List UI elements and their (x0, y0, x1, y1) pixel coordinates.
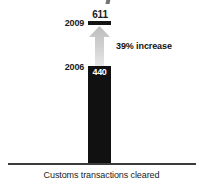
growth-bar-figure: 611 2009 39% increase 2006 440 Customs t… (0, 0, 203, 187)
year-label-2006: 2006 (52, 62, 84, 72)
bar-2006: 440 (88, 66, 111, 164)
value-label-2009: 611 (84, 9, 116, 20)
marker-bar-2009 (88, 21, 111, 25)
figure-caption: Customs transactions cleared (0, 170, 203, 180)
year-label-2009: 2009 (52, 18, 84, 28)
baseline-axis (8, 163, 196, 165)
growth-annotation-label: 39% increase (116, 41, 172, 51)
value-label-2006: 440 (88, 67, 111, 77)
growth-arrow-icon (88, 26, 111, 66)
cropped-title-remnant (105, 0, 110, 4)
